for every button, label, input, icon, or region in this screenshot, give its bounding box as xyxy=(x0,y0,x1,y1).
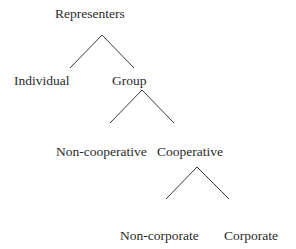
node-non-cooperative: Non-cooperative xyxy=(56,144,147,159)
edge-representers-group xyxy=(102,35,134,68)
node-individual: Individual xyxy=(14,73,70,88)
node-non-corporate: Non-corporate xyxy=(120,228,199,243)
node-corporate: Corporate xyxy=(224,228,278,243)
edge-group-cooperative xyxy=(142,90,174,123)
edge-cooperative-noncorporate xyxy=(166,167,197,199)
node-representers: Representers xyxy=(55,6,125,21)
node-group: Group xyxy=(112,73,147,88)
edge-group-noncooperative xyxy=(110,90,142,123)
node-cooperative: Cooperative xyxy=(157,144,223,159)
edge-cooperative-corporate xyxy=(197,167,229,199)
edge-representers-individual xyxy=(70,35,102,68)
tree-diagram: Representers Individual Group Non-cooper… xyxy=(0,0,296,249)
